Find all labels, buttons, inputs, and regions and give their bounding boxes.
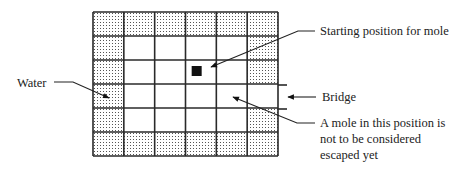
grid-cell-water: [216, 132, 247, 156]
grid-cell-water: [93, 12, 124, 36]
not-escaped-line-2: not to be considered: [320, 132, 422, 146]
grid-cell-land: [124, 36, 155, 60]
grid-cell-land: [124, 108, 155, 132]
grid-cell-land: [155, 60, 186, 84]
grid-cell-water: [93, 84, 124, 108]
grid-cell-water: [93, 132, 124, 156]
grid-cell-land: [186, 36, 217, 60]
grid-cell-land: [155, 36, 186, 60]
grid-cell-land: [124, 84, 155, 108]
grid-cell-land: [186, 108, 217, 132]
start-label: Starting position for mole: [320, 24, 449, 38]
bridge-label: Bridge: [322, 90, 356, 104]
grid-cell-land: [216, 84, 247, 108]
mole-marker: [192, 66, 202, 76]
grid-cell-water: [186, 132, 217, 156]
not-escaped-line-3: escaped yet: [320, 148, 378, 162]
grid-cell-water: [247, 60, 278, 84]
grid-cell-water: [124, 132, 155, 156]
grid-cell-land: [216, 36, 247, 60]
grid-cell-water: [186, 12, 217, 36]
grid-cell-land: [155, 84, 186, 108]
bridge-rails: [278, 85, 287, 109]
not-escaped-line-1: A mole in this position is: [320, 116, 445, 130]
grid-cell-land: [124, 60, 155, 84]
grid-cell-water: [247, 36, 278, 60]
grid-cell-water: [216, 12, 247, 36]
grid-cell-water: [247, 108, 278, 132]
grid-cell-water: [93, 108, 124, 132]
grid-cell-water: [124, 12, 155, 36]
grid-cell-water: [93, 36, 124, 60]
mole-grid-diagram: Water Starting position for mole Bridge …: [0, 0, 476, 175]
grid-cell-water: [155, 12, 186, 36]
grid-cell-water: [247, 132, 278, 156]
water-label: Water: [17, 76, 47, 90]
grid-cell-water: [93, 60, 124, 84]
grid-cell-land: [216, 108, 247, 132]
grid-cell-water: [247, 12, 278, 36]
grid-cell-land: [186, 84, 217, 108]
grid-cell-land: [216, 60, 247, 84]
grid-cell-water: [155, 132, 186, 156]
grid-cell-land: [155, 108, 186, 132]
